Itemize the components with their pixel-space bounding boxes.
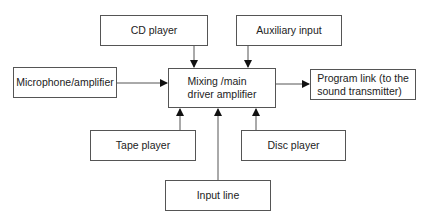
node-cd-player: CD player — [100, 15, 208, 46]
node-label: Tape player — [116, 139, 170, 152]
node-mixer: Mixing /main driver amplifier — [168, 68, 276, 108]
node-input-line: Input line — [165, 180, 271, 211]
node-auxiliary-input: Auxiliary input — [236, 15, 342, 46]
node-label: CD player — [131, 24, 178, 37]
node-label: Program link (to the sound transmitter) — [317, 72, 409, 98]
node-program-link: Program link (to the sound transmitter) — [310, 69, 416, 100]
node-label: Disc player — [268, 139, 320, 152]
node-label: Mixing /main driver amplifier — [188, 75, 257, 101]
node-label: Auxiliary input — [256, 24, 321, 37]
node-label: Input line — [197, 189, 240, 202]
node-tape-player: Tape player — [90, 130, 196, 161]
node-disc-player: Disc player — [241, 130, 346, 161]
node-microphone-amplifier: Microphone/amplifier — [13, 67, 117, 98]
node-label: Microphone/amplifier — [16, 76, 113, 89]
